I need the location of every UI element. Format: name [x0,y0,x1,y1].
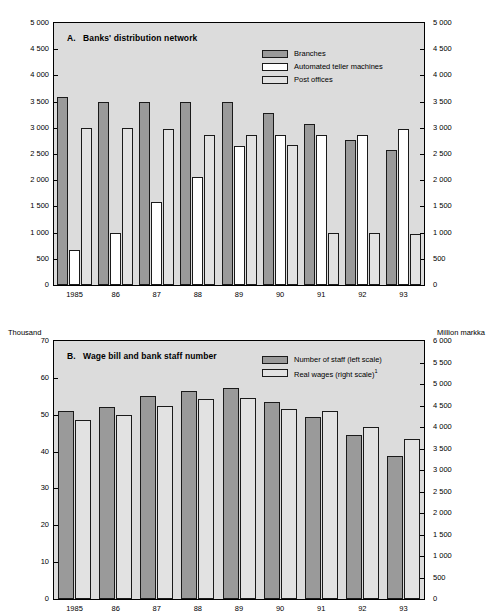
y-axis-tickmark-right [420,75,424,76]
legend-swatch-icon [262,76,288,84]
y-axis-tick-right: 500 [433,255,477,263]
bar-automated-teller-machines-91 [316,135,327,285]
y-axis-tickmark-right [420,154,424,155]
bar-branches-89 [222,102,233,285]
y-axis-tick-right: 3 000 [433,124,477,132]
bar-automated-teller-machines-89 [234,146,245,285]
chart-b-title: B. Wage bill and bank staff number [67,351,217,361]
x-axis-label-93: 93 [383,604,424,613]
legend-label: Number of staff (left scale) [294,355,382,364]
x-axis-label-90: 90 [260,290,301,299]
x-axis-label-93: 93 [383,290,424,299]
y-axis-tick-left: 5 000 [11,19,49,27]
bar-real-wages-right-scale-90 [281,409,297,599]
y-axis-tickmark-right [420,449,424,450]
bar-post-offices-88 [204,135,215,285]
y-axis-tick-right: 1 500 [433,202,477,210]
bar-automated-teller-machines-88 [192,177,203,285]
legend-item: Number of staff (left scale) [262,354,382,365]
y-axis-tick-right: 2 500 [433,488,477,496]
bar-automated-teller-machines-93 [398,129,409,285]
y-axis-tickmark-right [420,427,424,428]
y-axis-tick-right: 5 000 [433,19,477,27]
y-axis-tick-right: 3 000 [433,466,477,474]
bar-post-offices-93 [410,234,421,285]
y-axis-tick-left: 1 500 [11,202,49,210]
y-axis-tick-right: 1 500 [433,531,477,539]
y-axis-tick-left: 10 [11,558,49,566]
legend-swatch-icon [262,63,288,71]
y-axis-tickmark-right [420,578,424,579]
y-axis-tick-right: 4 000 [433,71,477,79]
y-axis-tick-left: 2 000 [11,176,49,184]
bar-branches-92 [345,140,356,285]
y-axis-tick-left: 3 500 [11,98,49,106]
x-axis-label-89: 89 [218,604,259,613]
y-axis-tick-left: 50 [11,411,49,419]
y-axis-tickmark-right [420,102,424,103]
bar-post-offices-89 [246,135,257,285]
bar-branches-86 [98,102,109,285]
bar-branches-93 [386,150,397,285]
y-axis-tickmark-left [54,49,58,50]
bar-post-offices-87 [163,129,174,285]
y-axis-tickmark-right [420,406,424,407]
y-axis-tick-left: 1 000 [11,229,49,237]
bar-number-of-staff-left-scale-87 [140,396,156,599]
x-axis-label-87: 87 [136,290,177,299]
bar-automated-teller-machines-1985 [69,250,80,285]
chart-a-title: A. Banks' distribution network [67,33,197,43]
bar-number-of-staff-left-scale-91 [305,417,321,599]
y-axis-tickmark-right [420,128,424,129]
x-axis-label-86: 86 [95,290,136,299]
y-axis-tickmark-right [420,556,424,557]
y-axis-tick-right: 1 000 [433,552,477,560]
panel-a-banks-distribution-network: A. Banks' distribution network BranchesA… [0,0,493,318]
bar-automated-teller-machines-92 [357,135,368,285]
chart-a-legend: BranchesAutomated teller machinesPost of… [262,48,383,87]
y-axis-tick-left: 2 500 [11,150,49,158]
bar-post-offices-90 [287,145,298,285]
x-axis-label-88: 88 [177,604,218,613]
bar-automated-teller-machines-86 [110,233,121,285]
bar-automated-teller-machines-90 [275,135,286,285]
bar-number-of-staff-left-scale-89 [223,388,239,599]
bar-real-wages-right-scale-89 [240,398,256,599]
y-axis-tick-left: 500 [11,255,49,263]
y-axis-tickmark-right [420,206,424,207]
y-axis-tickmark-right [420,470,424,471]
y-axis-tickmark-right [420,49,424,50]
y-axis-tick-right: 3 500 [433,445,477,453]
bar-post-offices-91 [328,233,339,285]
bar-post-offices-1985 [81,128,92,285]
legend-label: Post offices [294,75,333,84]
bar-real-wages-right-scale-1985 [75,420,91,599]
y-axis-tick-left: 30 [11,484,49,492]
y-axis-tick-left: 20 [11,521,49,529]
y-axis-tick-right: 4 500 [433,402,477,410]
x-axis-label-90: 90 [260,604,301,613]
x-axis-label-91: 91 [301,604,342,613]
y-axis-tickmark-right [420,492,424,493]
y-axis-tick-right: 5 000 [433,380,477,388]
y-axis-tick-right: 0 [433,281,477,289]
x-axis-label-1985: 1985 [54,604,95,613]
bar-real-wages-right-scale-86 [116,415,132,599]
y-axis-tick-left: 0 [11,595,49,603]
y-axis-tickmark-left [54,378,58,379]
y-axis-tick-right: 2 000 [433,509,477,517]
y-axis-tickmark-right [420,384,424,385]
legend-item: Branches [262,48,383,59]
y-axis-tick-right: 5 500 [433,359,477,367]
y-axis-tick-right: 3 500 [433,98,477,106]
x-axis-label-92: 92 [342,604,383,613]
y-axis-tickmark-right [420,513,424,514]
y-axis-tick-right: 500 [433,574,477,582]
bar-branches-87 [139,102,150,285]
bar-automated-teller-machines-87 [151,202,162,285]
chart-b-left-unit-label: Thousand [8,328,41,337]
y-axis-tick-right: 2 500 [433,150,477,158]
bar-real-wages-right-scale-91 [322,411,338,599]
chart-b-legend: Number of staff (left scale)Real wages (… [262,354,382,380]
y-axis-tick-right: 1 000 [433,229,477,237]
